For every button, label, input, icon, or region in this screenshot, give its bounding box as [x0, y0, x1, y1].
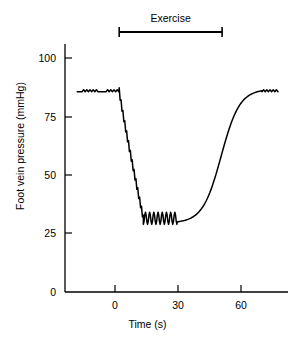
x-tick-marks [115, 285, 241, 292]
foot-vein-pressure-chart: Foot vein pressure (mmHg) 100 75 50 25 0… [0, 0, 295, 339]
plot-area [0, 0, 295, 339]
exercise-bar [119, 27, 222, 37]
y-tick-marks [65, 58, 72, 233]
pressure-trace [77, 88, 278, 225]
